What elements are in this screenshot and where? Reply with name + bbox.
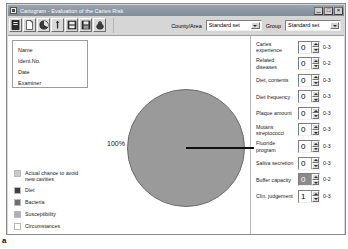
title-bar[interactable]: Cariogram - Evaluation of the Caries Ris…: [8, 5, 344, 16]
fluoride-program-stepper[interactable]: 0: [298, 140, 320, 153]
param-value[interactable]: 0: [299, 75, 311, 86]
legend-swatch: [14, 223, 21, 230]
save-button[interactable]: [79, 18, 92, 32]
caret-down-icon: [314, 49, 318, 51]
info-icon: [53, 20, 62, 30]
param-value[interactable]: 0: [299, 108, 311, 119]
chevron-down-glyph: [333, 25, 337, 27]
param-value[interactable]: 0: [299, 141, 311, 152]
param-value[interactable]: 0: [299, 124, 311, 135]
param-range: 0-3: [323, 160, 331, 167]
param-value[interactable]: 0: [299, 158, 311, 169]
caries-experience-stepper[interactable]: 0: [298, 41, 320, 54]
stepper-down-button[interactable]: [312, 113, 319, 119]
caret-down-icon: [314, 165, 318, 167]
param-value[interactable]: 0: [299, 91, 311, 102]
param-value[interactable]: 0: [299, 58, 311, 69]
caret-down-icon: [314, 148, 318, 150]
caret-up-icon: [314, 126, 318, 128]
county-area-value: Standard set: [207, 21, 240, 30]
patient-info-box: Name Ident.No. Date Examiner: [12, 40, 88, 88]
patient-field-ident-no[interactable]: Ident.No.: [18, 56, 87, 67]
diet-contents-stepper[interactable]: 0: [298, 74, 320, 87]
chevron-down-glyph: [253, 25, 257, 27]
param-label: Plaque amount: [256, 110, 298, 116]
legend-label: Susceptibility: [25, 211, 56, 217]
param-row-mutans-streptococci: Mutans streptococci 0 0-3: [256, 123, 344, 137]
toolbar-button-group: [9, 18, 107, 32]
param-label: Caries experience: [256, 41, 298, 53]
legend-swatch: [14, 199, 21, 206]
legend-swatch: [14, 187, 21, 194]
saliva-secretion-stepper[interactable]: 0: [298, 157, 320, 170]
legend-item-actual-chance: Actual chance to avoid new cavities: [14, 170, 124, 182]
chart-legend: Actual chance to avoid new cavities Diet…: [14, 170, 124, 235]
legend-swatch: [14, 211, 21, 218]
param-label: Clin. judgement: [256, 193, 298, 199]
stepper-down-button[interactable]: [312, 80, 319, 86]
group-value: Standard set: [286, 21, 319, 30]
param-row-fluoride-program: Fluoride program 0 0-3: [256, 140, 344, 154]
patient-field-date[interactable]: Date: [18, 67, 87, 78]
legend-label: Actual chance to avoid new cavities: [25, 170, 78, 182]
param-value[interactable]: 1: [299, 191, 311, 202]
related-diseases-stepper[interactable]: 0: [298, 57, 320, 70]
patient-field-examiner[interactable]: Examiner: [18, 78, 87, 89]
plaque-amount-stepper[interactable]: 0: [298, 107, 320, 120]
clin-judgement-stepper[interactable]: 1: [298, 190, 320, 203]
stepper-buttons: [311, 108, 319, 119]
diet-frequency-stepper[interactable]: 0: [298, 90, 320, 103]
stepper-down-button[interactable]: [312, 196, 319, 202]
param-value[interactable]: 0: [299, 42, 311, 53]
county-area-label: County/Area: [171, 22, 202, 30]
caret-up-icon: [314, 43, 318, 45]
minimize-button[interactable]: _: [314, 7, 323, 15]
stepper-down-button[interactable]: [312, 130, 319, 136]
close-button[interactable]: ×: [334, 7, 343, 15]
param-row-plaque-amount: Plaque amount 0 0-3: [256, 106, 344, 120]
new-document-button[interactable]: [9, 18, 22, 32]
chevron-down-icon[interactable]: [330, 22, 339, 29]
document-icon: [11, 20, 20, 30]
param-value[interactable]: 0: [299, 174, 311, 185]
param-range: 0-3: [323, 110, 331, 117]
param-row-clin-judgement: Clin. judgement 1 0-3: [256, 189, 344, 203]
param-label: Diet frequency: [256, 94, 298, 100]
caret-down-icon: [314, 82, 318, 84]
stepper-buttons: [311, 124, 319, 135]
stepper-down-button[interactable]: [312, 147, 319, 153]
param-label: Saliva secretion: [256, 160, 298, 166]
open-file-button[interactable]: [23, 18, 36, 32]
help-button[interactable]: [93, 18, 106, 32]
param-range: 0-3: [323, 193, 331, 200]
group-select[interactable]: Standard set: [285, 20, 341, 31]
stepper-down-button[interactable]: [312, 47, 319, 53]
legend-label: Diet: [25, 187, 34, 193]
print-button[interactable]: [65, 18, 78, 32]
patient-field-name[interactable]: Name: [18, 45, 87, 56]
stepper-down-button[interactable]: [312, 64, 319, 70]
caret-down-icon: [314, 99, 318, 101]
legend-label: Bacteria: [25, 199, 44, 205]
caret-up-icon: [314, 76, 318, 78]
caret-down-icon: [314, 65, 318, 67]
legend-item-diet: Diet: [14, 187, 124, 194]
legend-item-bacteria: Bacteria: [14, 199, 124, 206]
stepper-down-button[interactable]: [312, 163, 319, 169]
pie-chart-button[interactable]: [37, 18, 50, 32]
caret-up-icon: [314, 193, 318, 195]
info-button[interactable]: [51, 18, 64, 32]
stepper-down-button[interactable]: [312, 180, 319, 186]
county-area-select[interactable]: Standard set: [206, 20, 262, 31]
stepper-down-button[interactable]: [312, 97, 319, 103]
mutans-streptococci-stepper[interactable]: 0: [298, 123, 320, 136]
top-selector-group: County/Area Standard set Group Standard …: [171, 20, 341, 31]
param-label: Related diseases: [256, 57, 298, 69]
param-label: Mutans streptococci: [256, 124, 298, 136]
buffer-capacity-stepper[interactable]: 0: [298, 173, 320, 186]
pie-chart-icon: [39, 20, 49, 30]
chevron-down-icon[interactable]: [251, 22, 260, 29]
app-icon: [10, 7, 17, 14]
pie-percent-label: 100%: [107, 140, 125, 148]
maximize-button[interactable]: □: [324, 7, 333, 15]
